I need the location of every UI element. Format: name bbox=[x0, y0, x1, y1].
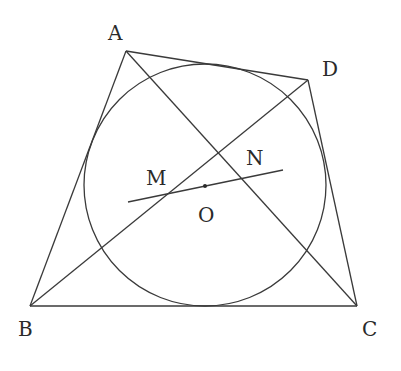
segments-group bbox=[30, 51, 357, 306]
label-o: O bbox=[198, 203, 214, 227]
label-m: M bbox=[146, 166, 166, 190]
label-d: D bbox=[322, 57, 338, 81]
label-n: N bbox=[246, 146, 264, 170]
center-point-o bbox=[203, 184, 207, 188]
diagram-canvas: A B C D M N O bbox=[0, 0, 401, 371]
label-b: B bbox=[18, 317, 33, 341]
geometry-figure: A B C D M N O bbox=[0, 0, 401, 371]
label-c: C bbox=[362, 317, 377, 341]
side-CD bbox=[308, 80, 357, 306]
label-a: A bbox=[107, 21, 123, 45]
